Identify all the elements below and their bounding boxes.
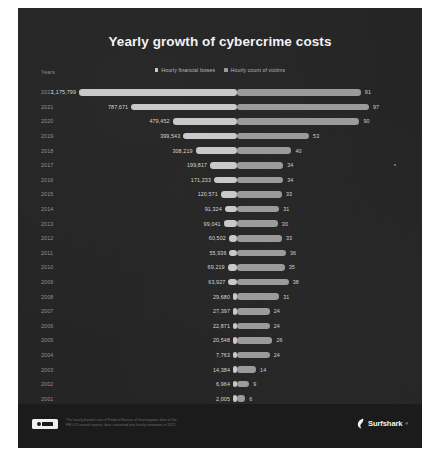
row-year-label: 2011 <box>41 250 63 256</box>
legend-label: Hourly financial losses <box>161 67 215 73</box>
row-year-label: 2013 <box>41 221 63 227</box>
loss-bar <box>131 104 237 111</box>
row-loss-value: 27,397 <box>213 308 230 314</box>
chart-row: 20026,9649 <box>41 377 399 392</box>
footnote-line-2: FBI IC3 annual reports; data converted i… <box>66 423 276 428</box>
row-loss-value: 6,964 <box>216 381 230 387</box>
surfshark-brand: Surfshark ® <box>356 418 408 429</box>
row-loss-value: 14,384 <box>213 367 230 373</box>
row-loss-value: 63,927 <box>208 279 225 285</box>
row-victims-value: 9 <box>253 381 256 387</box>
row-loss-value: 171,233 <box>191 177 211 183</box>
footnote-text: The hourly based costs of Federal Bureau… <box>66 418 276 429</box>
chart-row: 200622,87124 <box>41 319 399 334</box>
cc-wordmark-icon <box>42 422 53 426</box>
row-loss-value: 29,680 <box>213 294 230 300</box>
row-victims-value: 6 <box>249 396 252 402</box>
row-loss-value: 479,452 <box>149 118 169 124</box>
page-title: Yearly growth of cybercrime costs <box>18 34 422 49</box>
row-year-label: 2008 <box>41 294 63 300</box>
chart-row: 201069,21935 <box>41 260 399 275</box>
victims-bar <box>237 162 283 169</box>
victims-bar <box>237 323 270 330</box>
row-victims-value: 24 <box>274 352 280 358</box>
row-year-label: 2004 <box>41 352 63 358</box>
chart-row: 201260,50233 <box>41 231 399 246</box>
chart-row: 200727,39724 <box>41 304 399 319</box>
victims-bar <box>237 352 270 359</box>
row-year-label: 2006 <box>41 323 63 329</box>
loss-bar <box>173 118 237 125</box>
chart-row: 200829,68031 <box>41 289 399 304</box>
victims-bar <box>237 206 279 213</box>
row-year-label: 2019 <box>41 133 63 139</box>
row-year-label: 2015 <box>41 191 63 197</box>
chart-rows: 20221,175,799912021787,671972020479,4529… <box>41 85 399 406</box>
victims-bar <box>237 337 272 344</box>
row-victims-value: 31 <box>283 294 289 300</box>
row-loss-value: 22,871 <box>213 323 230 329</box>
row-victims-value: 24 <box>274 323 280 329</box>
row-year-label: 2017 <box>41 162 63 168</box>
loss-bar <box>196 147 237 154</box>
row-year-label: 2012 <box>41 235 63 241</box>
row-victims-value: 26 <box>276 337 282 343</box>
victims-bar <box>237 147 291 154</box>
victims-bar <box>237 366 256 373</box>
victims-bar <box>237 133 309 140</box>
row-year-label: 2021 <box>41 104 63 110</box>
row-victims-value: 97 <box>373 104 379 110</box>
row-loss-value: 399,543 <box>160 133 180 139</box>
row-victims-value: 24 <box>274 308 280 314</box>
row-loss-value: 60,502 <box>209 235 226 241</box>
row-loss-value: 55,936 <box>209 250 226 256</box>
row-loss-value: 308,219 <box>172 148 192 154</box>
infographic-poster: Yearly growth of cybercrime costs Years … <box>18 8 422 448</box>
loss-bar <box>214 177 237 184</box>
row-loss-value: 69,219 <box>208 264 225 270</box>
chart-legend: Hourly financial losses Hourly count of … <box>18 67 422 73</box>
legend-label: Hourly count of victims <box>231 67 285 73</box>
victims-bar <box>237 279 289 286</box>
row-victims-value: 33 <box>286 235 292 241</box>
loss-bar <box>229 250 237 257</box>
square-swatch-icon <box>224 68 227 71</box>
row-victims-value: 53 <box>313 133 319 139</box>
row-year-label: 2018 <box>41 148 63 154</box>
row-year-label: 2003 <box>41 367 63 373</box>
row-year-label: 2007 <box>41 308 63 314</box>
loss-bar <box>228 279 237 286</box>
row-year-label: 2020 <box>41 118 63 124</box>
victims-bar <box>237 395 245 402</box>
legend-item-hourly-count-of-victims: Hourly count of victims <box>224 67 285 73</box>
row-victims-value: 34 <box>287 162 293 168</box>
loss-bar <box>183 133 237 140</box>
row-year-label: 2002 <box>41 381 63 387</box>
row-victims-value: 90 <box>363 118 369 124</box>
victims-bar <box>237 293 279 300</box>
loss-bar <box>228 264 237 271</box>
cc-circle-icon <box>37 422 42 427</box>
chart-row: 200314,38414 <box>41 362 399 377</box>
loss-bar <box>225 206 237 213</box>
victims-bar <box>237 381 249 388</box>
square-swatch-icon <box>155 68 158 71</box>
chart-row: 201155,93636 <box>41 246 399 261</box>
chart-row: 200520,54826 <box>41 333 399 348</box>
row-year-label: 2001 <box>41 396 63 402</box>
poster-footer: The hourly based costs of Federal Bureau… <box>18 404 422 448</box>
loss-bar <box>229 235 237 242</box>
row-victims-value: 34 <box>287 177 293 183</box>
chart-row: 2019399,54353 <box>41 129 399 144</box>
row-loss-value: 91,324 <box>205 206 222 212</box>
victims-bar <box>237 220 278 227</box>
victims-bar <box>237 177 283 184</box>
row-loss-value: 20,548 <box>213 337 230 343</box>
row-victims-value: 33 <box>286 191 292 197</box>
victims-bar <box>237 264 285 271</box>
legend-item-hourly-financial-losses: Hourly financial losses <box>155 67 215 73</box>
brand-trademark: ® <box>406 422 409 426</box>
row-loss-value: 1,175,799 <box>51 89 76 95</box>
row-victims-value: 14 <box>260 367 266 373</box>
row-victims-value: 31 <box>283 206 289 212</box>
